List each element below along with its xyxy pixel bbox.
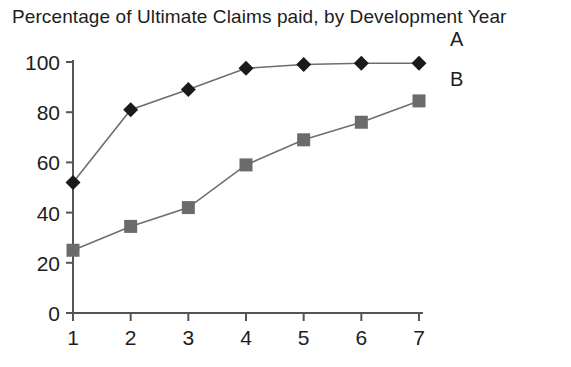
data-point-marker-a [239,61,254,76]
data-point-marker-b [124,220,137,233]
series-label-b: B [450,68,463,90]
x-tick-label: 7 [413,326,425,349]
data-point-marker-a [412,56,427,71]
x-tick-label: 3 [182,326,194,349]
x-tick-label: 1 [67,326,79,349]
data-point-marker-b [240,158,253,171]
series-label-a: A [450,28,464,50]
data-point-marker-b [355,116,368,129]
chart-plot-area: 0204060801001234567AB [0,0,571,367]
chart-container: Percentage of Ultimate Claims paid, by D… [0,0,571,367]
y-tick-label: 100 [25,51,60,74]
data-point-marker-b [67,244,80,257]
y-tick-label: 40 [37,202,60,225]
data-point-marker-a [123,102,138,117]
x-tick-label: 6 [355,326,367,349]
data-point-marker-a [66,175,81,190]
data-point-marker-a [181,82,196,97]
data-point-marker-b [182,201,195,214]
data-point-marker-a [354,56,369,71]
x-tick-label: 4 [240,326,252,349]
x-tick-label: 5 [298,326,310,349]
x-tick-label: 2 [125,326,137,349]
y-tick-label: 80 [37,101,60,124]
y-tick-label: 0 [48,302,60,325]
data-point-marker-b [413,94,426,107]
data-point-marker-a [296,57,311,72]
data-point-marker-b [297,133,310,146]
y-tick-label: 20 [37,252,60,275]
y-tick-label: 60 [37,151,60,174]
